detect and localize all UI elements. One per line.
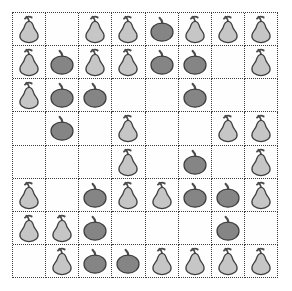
pear-icon: [114, 47, 142, 77]
fruit-grid-page: [0, 0, 292, 291]
grid-cell[interactable]: [13, 146, 46, 179]
grid-cell[interactable]: [179, 13, 212, 46]
grid-cell[interactable]: [79, 146, 112, 179]
grid-cell[interactable]: [179, 245, 212, 278]
grid-cell[interactable]: [13, 212, 46, 245]
pear-icon: [181, 246, 209, 276]
grid-cell[interactable]: [146, 245, 179, 278]
grid-cell[interactable]: [212, 245, 245, 278]
grid-cell[interactable]: [112, 179, 145, 212]
grid-cell[interactable]: [46, 79, 79, 112]
grid-cell[interactable]: [212, 112, 245, 145]
apple-icon: [48, 80, 76, 110]
grid-cell[interactable]: [13, 13, 46, 46]
grid-cell[interactable]: [179, 112, 212, 145]
pear-icon: [148, 180, 176, 210]
grid-cell[interactable]: [212, 179, 245, 212]
grid-cell[interactable]: [112, 112, 145, 145]
apple-icon: [181, 47, 209, 77]
grid-cell[interactable]: [146, 146, 179, 179]
grid-cell[interactable]: [46, 179, 79, 212]
pear-icon: [247, 113, 275, 143]
grid-cell[interactable]: [146, 212, 179, 245]
grid-cell[interactable]: [79, 112, 112, 145]
grid-cell[interactable]: [79, 46, 112, 79]
fruit-grid: [12, 12, 278, 278]
apple-icon: [81, 246, 109, 276]
pear-icon: [181, 14, 209, 44]
pear-icon: [81, 14, 109, 44]
grid-cell[interactable]: [13, 179, 46, 212]
apple-icon: [181, 80, 209, 110]
grid-cell[interactable]: [245, 13, 278, 46]
grid-cell[interactable]: [46, 13, 79, 46]
grid-cell[interactable]: [46, 46, 79, 79]
grid-cell[interactable]: [79, 245, 112, 278]
pear-icon: [15, 213, 43, 243]
pear-icon: [81, 47, 109, 77]
grid-cell[interactable]: [179, 79, 212, 112]
apple-icon: [81, 213, 109, 243]
grid-cell[interactable]: [245, 146, 278, 179]
grid-cell[interactable]: [212, 146, 245, 179]
grid-cell[interactable]: [13, 112, 46, 145]
grid-cell[interactable]: [245, 245, 278, 278]
grid-cell[interactable]: [245, 179, 278, 212]
grid-cell[interactable]: [146, 46, 179, 79]
grid-cell[interactable]: [46, 112, 79, 145]
grid-cell[interactable]: [212, 46, 245, 79]
grid-cell[interactable]: [179, 179, 212, 212]
grid-cell[interactable]: [112, 146, 145, 179]
grid-cell[interactable]: [112, 46, 145, 79]
grid-cell[interactable]: [179, 46, 212, 79]
grid-cell[interactable]: [146, 112, 179, 145]
pear-icon: [114, 113, 142, 143]
apple-icon: [214, 213, 242, 243]
grid-cell[interactable]: [13, 245, 46, 278]
grid-cell[interactable]: [146, 13, 179, 46]
grid-cell[interactable]: [79, 179, 112, 212]
pear-icon: [247, 147, 275, 177]
grid-cell[interactable]: [146, 79, 179, 112]
apple-icon: [148, 47, 176, 77]
grid-cell[interactable]: [146, 179, 179, 212]
pear-icon: [48, 246, 76, 276]
grid-cell[interactable]: [46, 146, 79, 179]
grid-cell[interactable]: [245, 112, 278, 145]
grid-cell[interactable]: [112, 212, 145, 245]
grid-cell[interactable]: [46, 245, 79, 278]
grid-cell[interactable]: [212, 79, 245, 112]
grid-cell[interactable]: [79, 13, 112, 46]
apple-icon: [114, 246, 142, 276]
pear-icon: [247, 180, 275, 210]
grid-cell[interactable]: [79, 212, 112, 245]
apple-icon: [181, 147, 209, 177]
grid-cell[interactable]: [245, 212, 278, 245]
pear-icon: [214, 246, 242, 276]
pear-icon: [214, 113, 242, 143]
pear-icon: [15, 180, 43, 210]
grid-cell[interactable]: [112, 13, 145, 46]
pear-icon: [114, 147, 142, 177]
pear-icon: [114, 180, 142, 210]
pear-icon: [247, 47, 275, 77]
apple-icon: [148, 14, 176, 44]
grid-cell[interactable]: [13, 79, 46, 112]
apple-icon: [81, 180, 109, 210]
grid-cell[interactable]: [13, 46, 46, 79]
grid-cell[interactable]: [245, 46, 278, 79]
pear-icon: [114, 14, 142, 44]
grid-cell[interactable]: [179, 146, 212, 179]
pear-icon: [247, 14, 275, 44]
grid-cell[interactable]: [245, 79, 278, 112]
grid-cell[interactable]: [79, 79, 112, 112]
grid-cell[interactable]: [212, 212, 245, 245]
apple-icon: [48, 113, 76, 143]
pear-icon: [15, 47, 43, 77]
pear-icon: [48, 213, 76, 243]
grid-cell[interactable]: [112, 245, 145, 278]
grid-cell[interactable]: [112, 79, 145, 112]
grid-cell[interactable]: [46, 212, 79, 245]
grid-cell[interactable]: [179, 212, 212, 245]
grid-cell[interactable]: [212, 13, 245, 46]
